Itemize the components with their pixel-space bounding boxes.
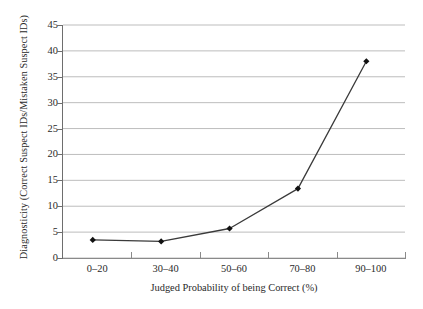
y-axis-tick-label: 40 [34, 45, 58, 57]
x-axis-tick-mark [131, 252, 132, 259]
x-axis-tick-label: 0–20 [87, 262, 108, 276]
y-axis-tick-label: 0 [34, 252, 58, 264]
y-axis-tick-mark [57, 103, 63, 104]
data-series-diagnosticity [63, 25, 405, 258]
y-axis-tick-mark [57, 25, 63, 26]
data-point-marker [226, 225, 232, 231]
y-axis-tick-label: 20 [34, 148, 58, 160]
y-axis-tick-label: 25 [34, 123, 58, 135]
x-axis-tick-mark [200, 252, 201, 259]
y-axis-tick-label: 10 [34, 200, 58, 212]
y-axis-title: Diagnosticity (Correct Suspect IDs/Mista… [18, 2, 34, 272]
y-axis-tick-mark [57, 180, 63, 181]
x-axis-tick-labels: 0–2030–4050–6070–8090–100 [63, 262, 405, 278]
y-axis-tick-mark [57, 129, 63, 130]
x-axis-tick-mark [268, 252, 269, 259]
series-line [93, 61, 367, 241]
y-axis-tick-label: 45 [34, 19, 58, 31]
data-point-marker [158, 238, 164, 244]
y-axis-tick-labels: 051015202530354045 [34, 18, 58, 272]
data-point-marker [90, 237, 96, 243]
chart-figure: Diagnosticity (Correct Suspect IDs/Mista… [0, 0, 423, 309]
y-axis-tick-mark [57, 77, 63, 78]
x-axis-line [62, 258, 406, 259]
y-axis-tick-mark [57, 51, 63, 52]
y-axis-tick-label: 35 [34, 71, 58, 83]
x-axis-title: Judged Probability of being Correct (%) [63, 282, 405, 293]
x-axis-tick-label: 90–100 [355, 262, 386, 276]
plot-area [63, 25, 405, 258]
y-axis-tick-label: 15 [34, 174, 58, 186]
y-axis-tick-mark [57, 258, 63, 259]
x-axis-tick-label: 50–60 [221, 262, 247, 276]
data-point-marker [363, 58, 369, 64]
y-axis-tick-mark [57, 232, 63, 233]
y-axis-tick-label: 5 [34, 226, 58, 238]
y-axis-tick-label: 30 [34, 97, 58, 109]
x-axis-tick-label: 70–80 [289, 262, 315, 276]
x-axis-end-cap [405, 252, 406, 259]
y-axis-tick-mark [57, 154, 63, 155]
data-point-marker [295, 186, 301, 192]
x-axis-tick-label: 30–40 [153, 262, 179, 276]
y-axis-tick-mark [57, 206, 63, 207]
x-axis-tick-mark [337, 252, 338, 259]
